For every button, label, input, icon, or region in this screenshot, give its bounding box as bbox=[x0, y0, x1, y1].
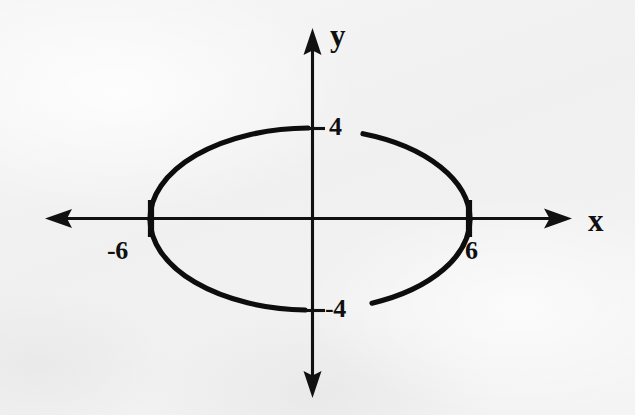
tick-label-x-positive-6: 6 bbox=[465, 238, 478, 264]
tick-label-y-negative-4: -4 bbox=[325, 296, 346, 322]
y-axis-group bbox=[304, 28, 322, 398]
ellipse-arc-upper-left bbox=[150, 128, 308, 219]
figure-canvas: y x 4 -4 -6 6 bbox=[0, 0, 635, 415]
tick-label-y-positive-4: 4 bbox=[329, 114, 342, 140]
ellipse-graph-svg bbox=[0, 0, 635, 415]
x-axis-group bbox=[45, 209, 572, 229]
tick-label-x-negative-6: -6 bbox=[107, 238, 128, 264]
ellipse-arc-lower-right bbox=[372, 219, 470, 303]
ellipse-arc-upper-right bbox=[363, 134, 470, 219]
y-axis-label: y bbox=[330, 20, 346, 51]
x-axis-label: x bbox=[588, 205, 604, 236]
ellipse-arc-lower-left bbox=[150, 219, 305, 310]
